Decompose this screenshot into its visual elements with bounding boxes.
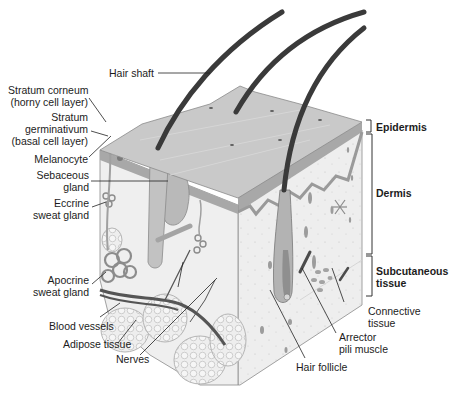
label-eccrine-sweat-gland: Eccrine sweat gland	[8, 197, 89, 221]
label-epidermis: Epidermis	[376, 121, 427, 133]
label-blood-vessels: Blood vessels	[49, 320, 114, 332]
label-arrector-pili-muscle: Arrector pili muscle	[339, 331, 388, 355]
label-adipose-tissue: Adipose tissue	[63, 338, 131, 350]
label-subcutaneous-tissue: Subcutaneous tissue	[376, 265, 448, 289]
layer-brackets	[366, 120, 372, 296]
label-stratum-germinativum: Stratum germinativum (basal cell layer)	[8, 111, 88, 147]
label-hair-follicle: Hair follicle	[296, 361, 347, 373]
skin-diagram: Hair shaft Stratum corneum (horny cell l…	[0, 0, 456, 393]
label-sebaceous-gland: Sebaceous gland	[8, 169, 89, 193]
label-hair-shaft: Hair shaft	[109, 67, 154, 79]
label-apocrine-sweat-gland: Apocrine sweat gland	[8, 274, 89, 298]
label-connective-tissue: Connective tissue	[368, 305, 421, 329]
label-dermis: Dermis	[376, 187, 412, 199]
label-stratum-corneum: Stratum corneum (horny cell layer)	[8, 84, 88, 108]
label-nerves: Nerves	[116, 353, 149, 365]
label-melanocyte: Melanocyte	[8, 153, 88, 165]
